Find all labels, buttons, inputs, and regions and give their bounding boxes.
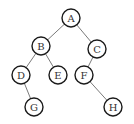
nodes-layer: ABCDEFGH <box>12 9 122 116</box>
tree-node-f: F <box>75 66 93 84</box>
tree-node-b: B <box>32 37 50 55</box>
tree-node-e: E <box>49 66 67 84</box>
tree-node-d: D <box>12 66 30 84</box>
node-label: B <box>37 41 44 52</box>
tree-node-h: H <box>104 98 122 116</box>
node-label: F <box>81 70 88 81</box>
tree-node-g: G <box>25 98 43 116</box>
node-label: G <box>30 102 38 113</box>
binary-tree-diagram: ABCDEFGH <box>0 0 134 124</box>
node-label: E <box>54 70 61 81</box>
node-label: D <box>17 70 25 81</box>
node-label: H <box>109 102 118 113</box>
node-label: A <box>66 13 75 24</box>
edges-layer <box>21 18 113 107</box>
tree-node-c: C <box>88 40 106 58</box>
node-label: C <box>93 44 101 55</box>
tree-node-a: A <box>62 9 80 27</box>
